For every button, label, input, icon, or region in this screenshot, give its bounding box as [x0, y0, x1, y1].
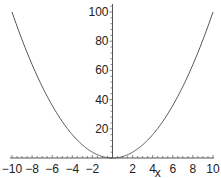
- x-tick-label: 6: [169, 162, 176, 176]
- y-tick-label: 100: [88, 5, 108, 19]
- parabola-plot: −10−8−6−4−224681020406080100x: [0, 0, 221, 178]
- x-tick-label: 2: [129, 162, 136, 176]
- x-tick-label: 10: [206, 162, 220, 176]
- y-tick-label: 40: [95, 93, 109, 107]
- axes: [10, 4, 214, 158]
- x-axis-label: x: [155, 166, 161, 178]
- x-tick-label: −8: [25, 162, 39, 176]
- x-tick-label: −2: [86, 162, 100, 176]
- y-tick-label: 60: [95, 63, 109, 77]
- x-tick-label: 8: [190, 162, 197, 176]
- y-tick-label: 80: [95, 34, 109, 48]
- x-tick-label: −10: [2, 162, 23, 176]
- x-tick-label: −4: [65, 162, 79, 176]
- x-tick-label: −6: [45, 162, 59, 176]
- y-tick-label: 20: [95, 122, 109, 136]
